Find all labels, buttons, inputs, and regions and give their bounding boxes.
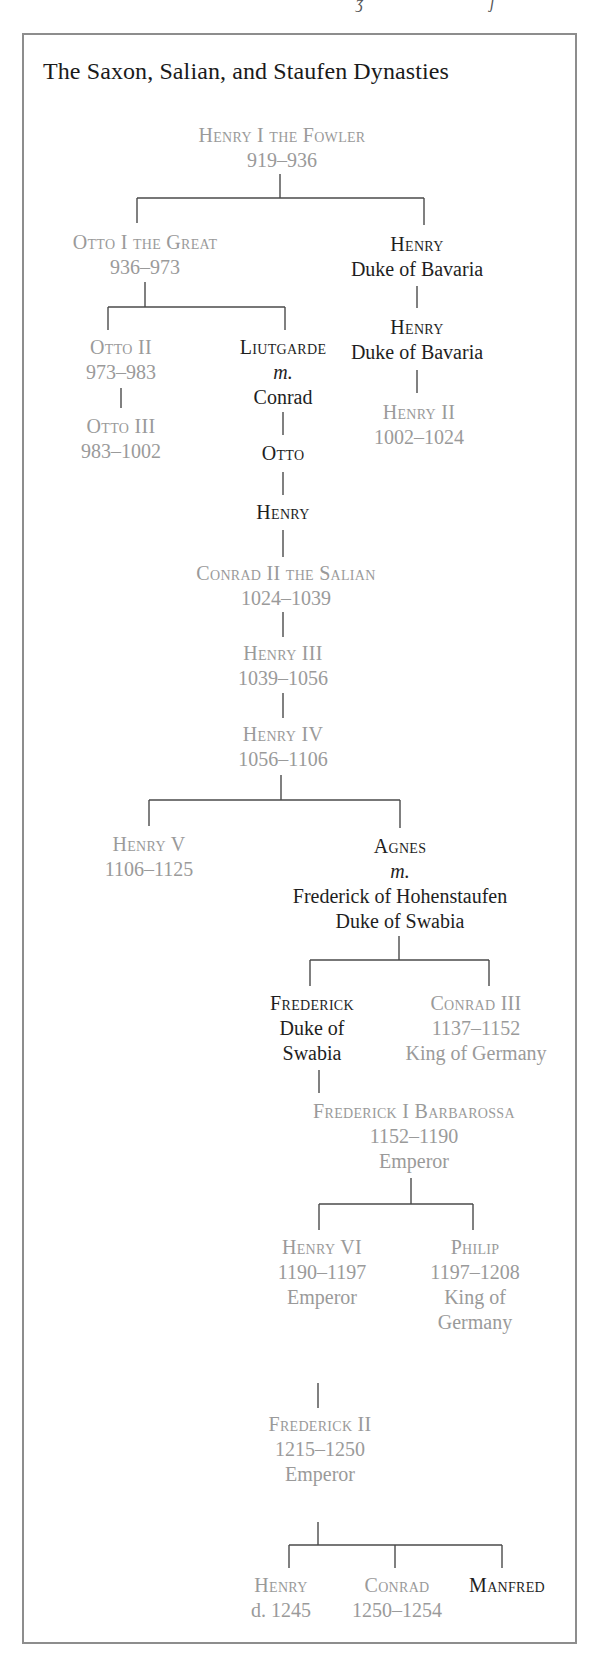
node-henry-ii: Henry II 1002–1024: [374, 400, 464, 450]
node-henry: Henry: [256, 500, 309, 525]
node-henry-vi: Henry VI 1190–1197 Emperor: [278, 1235, 367, 1310]
node-henry-iii: Henry III 1039–1056: [238, 641, 328, 691]
node-henry-duke-of-bavaria-2: Henry Duke of Bavaria: [351, 315, 483, 365]
node-otto: Otto: [262, 441, 305, 466]
node-manfred: Manfred: [469, 1573, 545, 1598]
node-frederick-i-barbarossa: Frederick I Barbarossa 1152–1190 Emperor: [313, 1099, 515, 1174]
node-henry-duke-of-bavaria-1: Henry Duke of Bavaria: [351, 232, 483, 282]
diagram-title: The Saxon, Salian, and Staufen Dynasties: [43, 58, 449, 85]
node-henry-iv: Henry IV 1056–1106: [238, 722, 327, 772]
running-header-fragment: ʒ: [356, 0, 363, 12]
node-henry-d-1245: Henry d. 1245: [251, 1573, 311, 1623]
node-conrad-ii-the-salian: Conrad II the Salian 1024–1039: [196, 561, 375, 611]
node-frederick-duke-of-swabia: Frederick Duke of Swabia: [270, 991, 354, 1066]
node-henry-i-the-fowler: Henry I the Fowler 919–936: [199, 123, 366, 173]
node-otto-i-the-great: Otto I the Great 936–973: [73, 230, 218, 280]
node-otto-ii: Otto II 973–983: [86, 335, 156, 385]
node-philip: Philip 1197–1208 King of Germany: [430, 1235, 519, 1335]
node-agnes: Agnes m. Frederick of Hohenstaufen Duke …: [293, 834, 507, 934]
node-frederick-ii: Frederick II 1215–1250 Emperor: [268, 1412, 371, 1487]
running-header-fragment: ʃ: [490, 0, 495, 12]
node-conrad-iii: Conrad III 1137–1152 King of Germany: [405, 991, 546, 1066]
node-henry-v: Henry V 1106–1125: [105, 832, 194, 882]
node-otto-iii: Otto III 983–1002: [81, 414, 161, 464]
node-liutgarde: Liutgarde m. Conrad: [240, 335, 326, 410]
node-conrad-iv: Conrad 1250–1254: [352, 1573, 442, 1623]
